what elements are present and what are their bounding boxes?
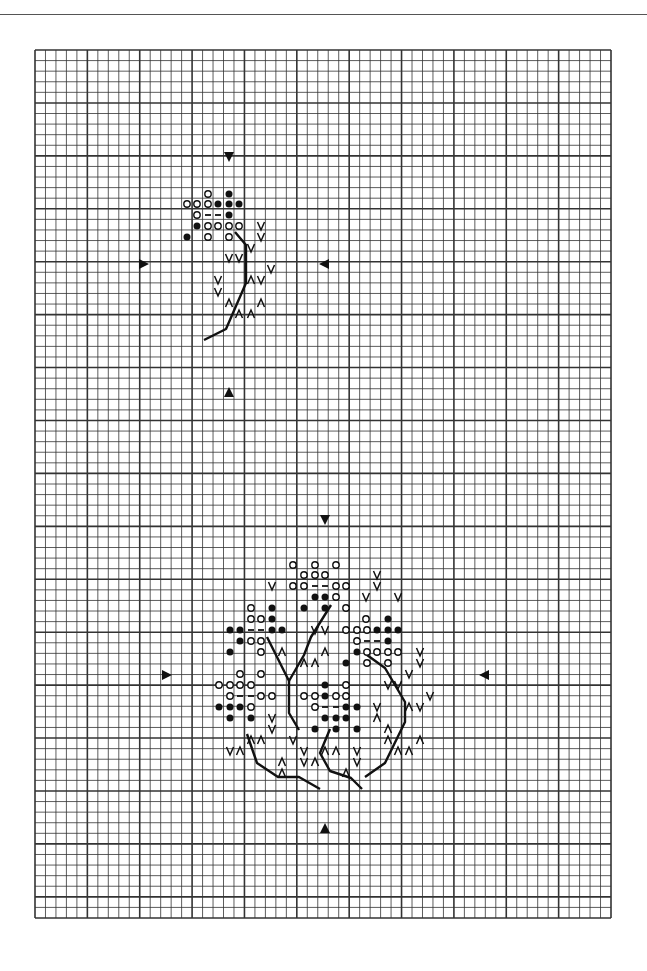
filled-circle-icon bbox=[237, 638, 244, 645]
open-circle-icon bbox=[363, 616, 369, 622]
v-mark-icon bbox=[290, 736, 297, 744]
caret-mark-icon bbox=[322, 648, 329, 656]
open-circle-icon bbox=[248, 605, 254, 611]
open-circle-icon bbox=[354, 627, 360, 633]
filled-circle-icon bbox=[226, 201, 233, 208]
open-circle-icon bbox=[364, 660, 370, 666]
open-circle-icon bbox=[258, 616, 264, 622]
open-circle-icon bbox=[248, 638, 254, 644]
filled-circle-icon bbox=[237, 627, 244, 634]
center-arrow-right-icon bbox=[139, 259, 149, 269]
filled-circle-icon bbox=[354, 726, 361, 733]
filled-circle-icon bbox=[269, 605, 276, 612]
open-circle-icon bbox=[227, 682, 233, 688]
open-circle-icon bbox=[194, 201, 200, 207]
open-circle-icon bbox=[364, 627, 370, 633]
open-circle-icon bbox=[312, 572, 318, 578]
filled-circle-icon bbox=[385, 616, 392, 623]
open-circle-icon bbox=[205, 223, 211, 229]
open-circle-icon bbox=[258, 671, 264, 677]
v-mark-icon bbox=[227, 747, 234, 755]
open-circle-icon bbox=[194, 212, 200, 218]
open-circle-icon bbox=[184, 201, 190, 207]
v-mark-icon bbox=[258, 233, 265, 241]
center-arrow-down-icon bbox=[224, 152, 234, 162]
filled-circle-icon bbox=[236, 201, 243, 208]
caret-mark-icon bbox=[385, 725, 392, 733]
open-circle-icon bbox=[301, 583, 307, 589]
open-circle-icon bbox=[343, 605, 349, 611]
caret-mark-icon bbox=[258, 736, 265, 744]
stitch-grid bbox=[35, 50, 611, 918]
filled-circle-icon bbox=[374, 627, 381, 634]
open-circle-icon bbox=[333, 594, 339, 600]
backstitch-line bbox=[365, 655, 405, 777]
open-circle-icon bbox=[290, 562, 296, 568]
open-circle-icon bbox=[237, 682, 243, 688]
filled-circle-icon bbox=[343, 704, 350, 711]
open-circle-icon bbox=[226, 223, 232, 229]
open-circle-icon bbox=[385, 660, 391, 666]
v-mark-icon bbox=[363, 593, 370, 601]
open-circle-icon bbox=[205, 201, 211, 207]
backstitch-line bbox=[204, 232, 246, 340]
center-arrow-left-icon bbox=[319, 259, 329, 269]
open-circle-icon bbox=[385, 649, 391, 655]
open-circle-icon bbox=[333, 562, 339, 568]
filled-circle-icon bbox=[194, 223, 201, 230]
filled-circle-icon bbox=[322, 715, 329, 722]
caret-mark-icon bbox=[406, 747, 413, 755]
open-circle-icon bbox=[364, 649, 370, 655]
open-circle-icon bbox=[343, 627, 349, 633]
open-circle-icon bbox=[248, 682, 254, 688]
caret-mark-icon bbox=[258, 299, 265, 307]
filled-circle-icon bbox=[216, 704, 223, 711]
v-mark-icon bbox=[268, 265, 275, 273]
filled-circle-icon bbox=[227, 649, 234, 656]
filled-circle-icon bbox=[343, 715, 350, 722]
filled-circle-icon bbox=[269, 627, 276, 634]
filled-circle-icon bbox=[269, 616, 276, 623]
v-mark-icon bbox=[374, 703, 381, 711]
open-circle-icon bbox=[343, 693, 349, 699]
open-circle-icon bbox=[226, 234, 232, 240]
open-circle-icon bbox=[236, 223, 242, 229]
v-mark-icon bbox=[258, 222, 265, 230]
filled-circle-icon bbox=[215, 201, 222, 208]
filled-circle-icon bbox=[226, 212, 233, 219]
filled-circle-icon bbox=[301, 605, 308, 612]
filled-circle-icon bbox=[354, 649, 361, 656]
open-circle-icon bbox=[216, 682, 222, 688]
filled-circle-icon bbox=[343, 660, 350, 667]
open-circle-icon bbox=[343, 583, 349, 589]
open-circle-icon bbox=[237, 671, 243, 677]
filled-circle-icon bbox=[354, 704, 361, 711]
filled-circle-icon bbox=[385, 638, 392, 645]
open-circle-icon bbox=[301, 693, 307, 699]
open-circle-icon bbox=[205, 234, 211, 240]
v-mark-icon bbox=[269, 582, 276, 590]
open-circle-icon bbox=[312, 562, 318, 568]
open-circle-icon bbox=[312, 693, 318, 699]
v-mark-icon bbox=[374, 582, 381, 590]
caret-mark-icon bbox=[385, 736, 392, 744]
center-arrow-right-icon bbox=[162, 670, 172, 680]
open-circle-icon bbox=[322, 572, 328, 578]
v-mark-icon bbox=[226, 254, 233, 262]
cross-stitch-chart bbox=[0, 0, 647, 971]
open-circle-icon bbox=[269, 693, 275, 699]
open-circle-icon bbox=[215, 223, 221, 229]
v-mark-icon bbox=[269, 725, 276, 733]
v-mark-icon bbox=[236, 254, 243, 262]
caret-mark-icon bbox=[237, 747, 244, 755]
filled-circle-icon bbox=[395, 627, 402, 634]
filled-circle-icon bbox=[322, 682, 329, 689]
open-circle-icon bbox=[258, 693, 264, 699]
open-circle-icon bbox=[248, 616, 254, 622]
open-circle-icon bbox=[333, 583, 339, 589]
open-circle-icon bbox=[290, 583, 296, 589]
open-circle-icon bbox=[248, 704, 254, 710]
filled-circle-icon bbox=[237, 704, 244, 711]
filled-circle-icon bbox=[322, 605, 329, 612]
filled-circle-icon bbox=[322, 693, 329, 700]
